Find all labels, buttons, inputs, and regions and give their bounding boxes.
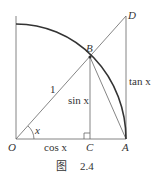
label-sin: sin x: [68, 94, 90, 106]
caption-number: 2.4: [80, 160, 94, 172]
label-A: A: [121, 141, 129, 153]
right-angle-marker: [84, 133, 90, 139]
label-radius: 1: [50, 83, 56, 95]
label-B: B: [86, 42, 93, 54]
label-cos: cos x: [44, 141, 67, 153]
unit-arc: [16, 24, 126, 139]
label-O: O: [8, 141, 16, 153]
label-D: D: [127, 9, 136, 21]
label-angle-x: x: [34, 124, 40, 136]
point-B-dot: [89, 56, 92, 59]
angle-arc: [28, 126, 34, 139]
caption-prefix: 图: [56, 160, 67, 172]
label-tan: tan x: [129, 75, 151, 87]
unit-circle-diagram: D B 1 sin x tan x x O cos x C A 图 2.4: [0, 0, 155, 177]
label-C: C: [86, 141, 94, 153]
chord-BA: [90, 57, 126, 139]
